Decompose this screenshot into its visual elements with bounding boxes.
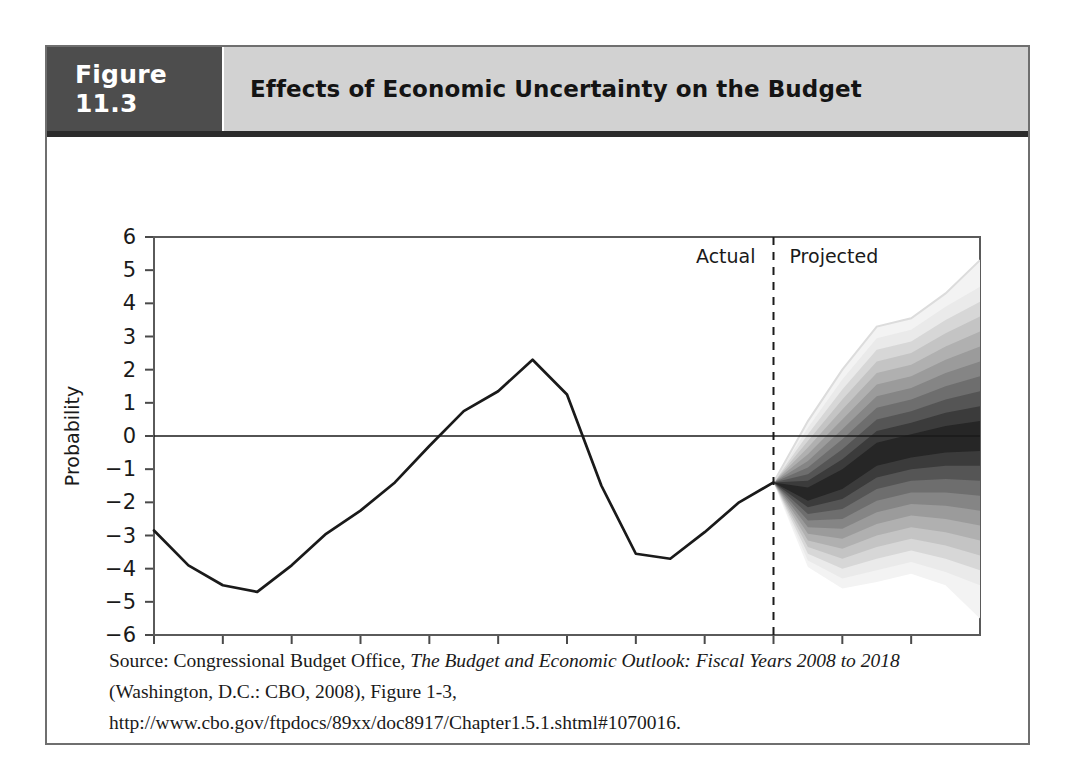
y-tick-label: 0 [123,424,136,448]
chart-plot-area: Probability 6543210−1−2−3−4−5−6 19891991… [47,137,1028,649]
figure-header: Figure 11.3 Effects of Economic Uncertai… [47,47,1028,131]
source-title-italic: The Budget and Economic Outlook: Fiscal … [410,650,899,671]
x-axis-tick-marks [154,635,911,644]
y-axis-title: Probability [61,386,83,486]
y-tick-label: −6 [105,623,136,647]
figure-number-label: Figure 11.3 [75,60,222,118]
figure-number-box: Figure 11.3 [47,47,222,131]
y-axis-tick-marks [145,237,154,635]
source-suffix: (Washington, D.C.: CBO, 2008), Figure 1-… [109,681,681,733]
y-tick-label: −3 [105,524,136,548]
actual-label: Actual [696,245,756,267]
projected-label: Projected [790,245,879,267]
y-tick-label: 1 [123,391,136,415]
y-axis-tick-labels: 6543210−1−2−3−4−5−6 [105,225,136,647]
uncertainty-fan-chart: Probability 6543210−1−2−3−4−5−6 19891991… [47,137,1028,649]
source-note: Source: Congressional Budget Office, The… [109,645,981,738]
figure-title: Effects of Economic Uncertainty on the B… [250,76,862,102]
y-tick-label: 5 [123,258,136,282]
y-tick-label: 4 [123,291,136,315]
y-tick-label: −2 [105,490,136,514]
figure-title-box: Effects of Economic Uncertainty on the B… [222,47,1028,131]
figure-frame: Figure 11.3 Effects of Economic Uncertai… [45,45,1030,745]
y-tick-label: −4 [105,557,136,581]
y-tick-label: 3 [123,325,136,349]
y-tick-label: 6 [123,225,136,249]
source-prefix: Source: Congressional Budget Office, [109,650,410,671]
actual-series-line [154,360,774,592]
y-tick-label: −5 [105,590,136,614]
y-tick-label: 2 [123,358,136,382]
y-tick-label: −1 [105,457,136,481]
probability-fan [774,260,981,618]
